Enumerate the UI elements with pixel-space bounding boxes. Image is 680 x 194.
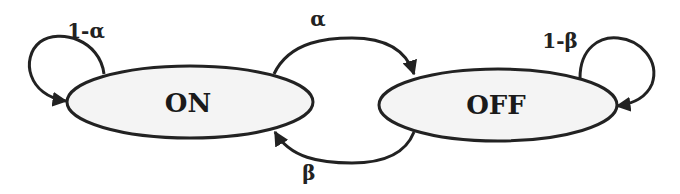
edge-label-beta: β [302,161,315,185]
state-diagram: ON OFF 1-α α β 1-β [0,0,680,194]
edge-on-to-off [274,38,414,74]
state-off-label: OFF [466,90,526,120]
state-on-label: ON [165,88,211,118]
edge-label-1-beta: 1-β [542,29,578,53]
edge-off-to-on [275,132,414,163]
diagram-svg: ON OFF 1-α α β 1-β [0,0,680,194]
edge-label-alpha: α [310,7,325,31]
edge-label-1-alpha: 1-α [67,19,105,43]
